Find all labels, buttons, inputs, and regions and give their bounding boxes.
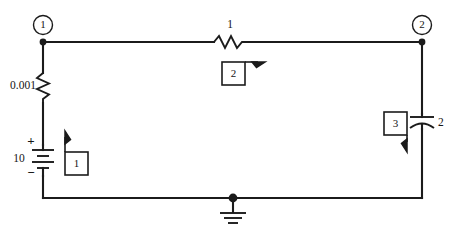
battery-minus-sign: − <box>27 165 34 180</box>
resistor-left-value: 0.001 <box>10 79 36 91</box>
resistor-top-zigzag <box>214 36 246 48</box>
mesh-3-arrow-head-down-icon <box>402 139 408 152</box>
mesh-2-label: 2 <box>231 67 237 79</box>
capacitor-right: 2 <box>410 114 444 129</box>
node-1-junction-dot <box>40 39 47 46</box>
mesh-1-arrow-head-up-icon <box>65 131 71 144</box>
mesh-3-label: 3 <box>393 117 399 129</box>
circuit-schematic: 1 2 0.001 + − 10 <box>0 0 453 238</box>
node-marker-1: 1 <box>34 16 53 46</box>
mesh-1-label: 1 <box>74 157 80 169</box>
mesh-current-1: 1 <box>65 131 88 175</box>
resistor-top-value: 1 <box>227 18 233 30</box>
mesh-current-3: 3 <box>384 112 407 152</box>
circuit-diagram-canvas: 1 2 0.001 + − 10 <box>0 0 453 238</box>
node-marker-2: 2 <box>413 16 432 46</box>
voltage-source: + − 10 <box>13 133 54 180</box>
capacitor-value: 2 <box>438 116 444 128</box>
mesh-current-2: 2 <box>222 62 265 85</box>
resistor-left: 0.001 <box>10 73 49 103</box>
battery-value: 10 <box>13 152 25 164</box>
resistor-top: 1 <box>214 18 246 48</box>
resistor-left-zigzag <box>37 73 49 103</box>
battery-plus-sign: + <box>27 133 34 148</box>
node-2-junction-dot <box>419 39 426 46</box>
mesh-2-arrow-head-right-icon <box>252 62 265 68</box>
node-2-label: 2 <box>419 18 425 30</box>
node-1-label: 1 <box>40 18 46 30</box>
